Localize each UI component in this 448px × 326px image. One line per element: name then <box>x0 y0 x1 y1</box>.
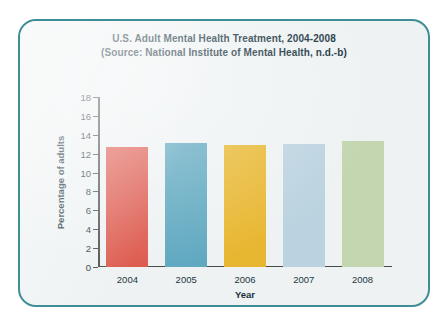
x-axis-tick-label: 2004 <box>117 274 138 285</box>
y-axis-tick-label: 14 <box>80 129 91 140</box>
chart-title-line-1: U.S. Adult Mental Health Treatment, 2004… <box>20 32 428 46</box>
y-axis-title: Percentage of adults <box>54 97 68 267</box>
bar-series: 20042005200620072008 <box>98 97 392 267</box>
bar-group: 2006 <box>224 97 266 267</box>
x-axis-title: Year <box>98 289 392 300</box>
y-axis-tick-label: 6 <box>86 205 91 216</box>
bar-group: 2008 <box>342 97 384 267</box>
chart-title: U.S. Adult Mental Health Treatment, 2004… <box>20 32 428 59</box>
y-axis-tick-label: 4 <box>86 224 91 235</box>
bar-group: 2005 <box>165 97 207 267</box>
chart-figure-frame: U.S. Adult Mental Health Treatment, 2004… <box>18 19 430 307</box>
y-axis-tick-label: 10 <box>80 167 91 178</box>
plot-area: 181614121086420 20042005200620072008 <box>98 97 392 267</box>
x-axis-tick-label: 2006 <box>234 274 255 285</box>
y-axis-tick-label: 18 <box>80 92 91 103</box>
y-axis-tick-label: 12 <box>80 148 91 159</box>
y-axis-tick-label: 2 <box>86 243 91 254</box>
bar <box>224 145 266 267</box>
x-axis-tick-label: 2008 <box>352 274 373 285</box>
chart-title-line-2: (Source: National Institute of Mental He… <box>20 46 428 60</box>
bar <box>106 147 148 267</box>
x-axis-tick-label: 2005 <box>176 274 197 285</box>
bar <box>342 141 384 267</box>
bar <box>283 144 325 267</box>
y-axis-tick <box>93 267 98 268</box>
bar <box>165 143 207 267</box>
y-axis-tick-label: 0 <box>86 262 91 273</box>
y-axis-tick-label: 16 <box>80 110 91 121</box>
y-axis-title-text: Percentage of adults <box>56 135 67 228</box>
y-axis-tick-label: 8 <box>86 186 91 197</box>
bar-group: 2007 <box>283 97 325 267</box>
x-axis-title-text: Year <box>235 289 255 300</box>
bar-group: 2004 <box>106 97 148 267</box>
x-axis-tick-label: 2007 <box>293 274 314 285</box>
